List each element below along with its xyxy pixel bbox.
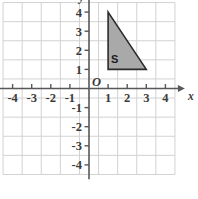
y-tick-label: 2 <box>76 44 82 58</box>
x-tick-label: 2 <box>124 91 130 105</box>
y-tick-label: -4 <box>72 158 83 172</box>
y-tick-label: 3 <box>76 25 82 39</box>
x-axis-label: x <box>187 90 194 102</box>
shape-label-s: S <box>111 53 118 65</box>
origin-label: O <box>92 75 101 89</box>
y-tick-label: -3 <box>72 139 82 153</box>
x-tick-label: 4 <box>162 91 169 105</box>
y-tick-label: 4 <box>76 6 83 20</box>
coordinate-plane-figure: S -4-3-2-112344321-1-2-3-4 x y O <box>0 0 198 199</box>
x-tick-label: -2 <box>46 91 56 105</box>
x-tick-label: 1 <box>105 91 111 105</box>
x-tick-label: -4 <box>7 91 18 105</box>
y-tick-label: -2 <box>72 120 82 134</box>
x-tick-label: -3 <box>26 91 36 105</box>
y-tick-label: -1 <box>72 101 82 115</box>
x-tick-label: 3 <box>143 91 149 105</box>
y-tick-label: 1 <box>76 63 82 77</box>
coordinate-grid-svg: S -4-3-2-112344321-1-2-3-4 x y O <box>0 0 198 199</box>
